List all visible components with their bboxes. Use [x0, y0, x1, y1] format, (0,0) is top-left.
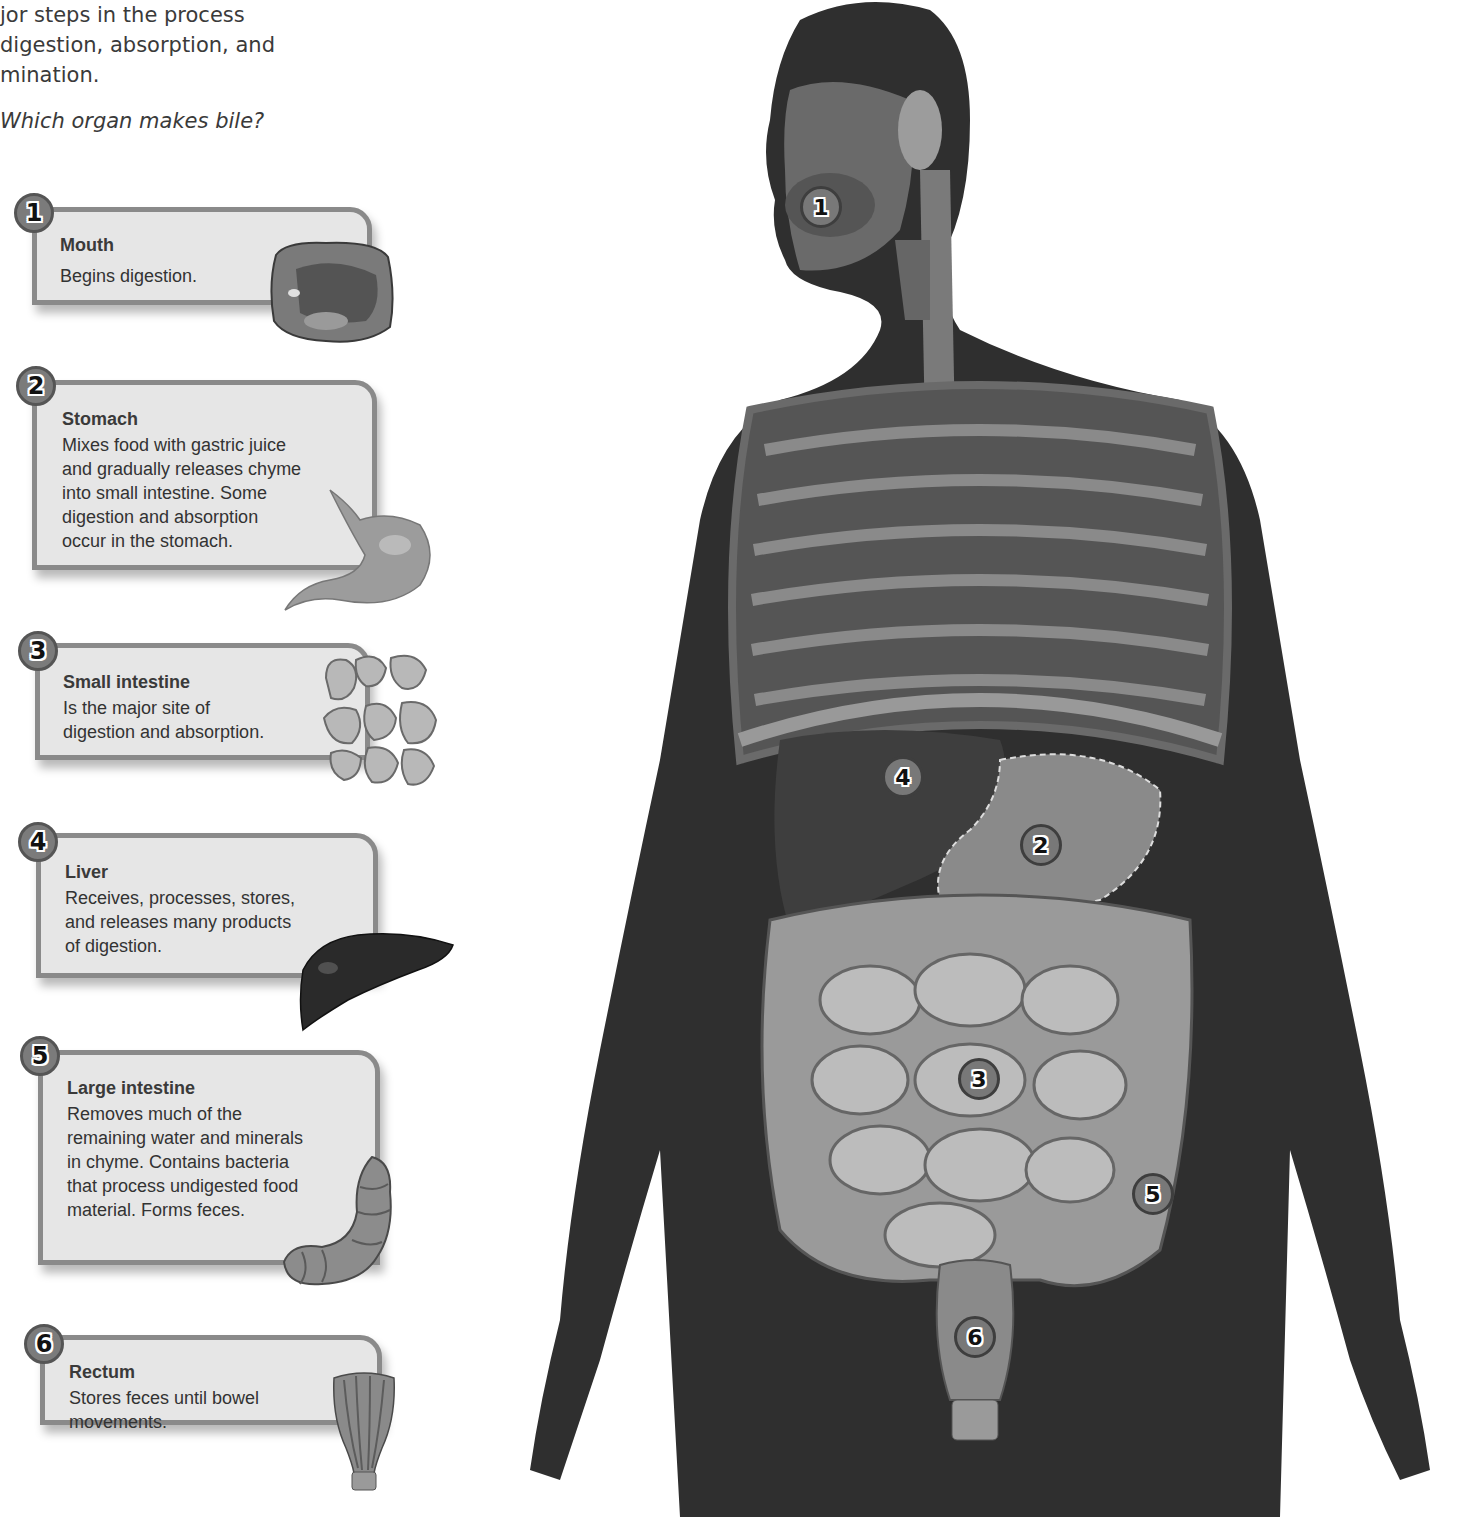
step-badge-3: 3 — [18, 631, 58, 671]
description-line: of digestion. — [65, 934, 295, 958]
figure-marker-large-intestine: 5 — [1132, 1173, 1174, 1215]
marker-number: 4 — [895, 765, 910, 790]
figure-question: Which organ makes bile? — [0, 109, 264, 133]
description-line: in chyme. Contains bacteria — [67, 1150, 303, 1174]
step-badge-2: 2 — [16, 366, 56, 406]
description-line: Stores feces until bowel — [69, 1386, 259, 1410]
stomach-icon — [280, 485, 440, 615]
step-description: Removes much of the remaining water and … — [67, 1102, 303, 1222]
marker-number: 1 — [813, 195, 828, 220]
step-number: 4 — [30, 828, 47, 856]
intro-line: mination. — [0, 60, 320, 90]
description-line: that process undigested food — [67, 1174, 303, 1198]
figure-marker-small-intestine: 3 — [958, 1058, 1000, 1100]
description-line: Mixes food with gastric juice — [62, 433, 301, 457]
mouth-cross-section-icon — [266, 235, 398, 347]
step-number: 2 — [28, 372, 45, 400]
marker-number: 2 — [1033, 833, 1048, 858]
human-body-figure — [500, 0, 1458, 1517]
intro-text: jor steps in the process digestion, abso… — [0, 0, 320, 90]
step-title: Rectum — [69, 1362, 135, 1383]
step-title: Large intestine — [67, 1078, 195, 1099]
marker-number: 3 — [971, 1067, 986, 1092]
description-line: digestion and absorption — [62, 505, 301, 529]
step-badge-6: 6 — [24, 1324, 64, 1364]
small-intestine-icon — [316, 648, 444, 790]
step-title: Mouth — [60, 235, 114, 256]
description-line: Removes much of the — [67, 1102, 303, 1126]
description-line: Receives, processes, stores, — [65, 886, 295, 910]
step-number: 3 — [30, 637, 47, 665]
description-line: Begins digestion. — [60, 264, 197, 288]
figure-marker-rectum: 6 — [954, 1316, 996, 1358]
description-line: digestion and absorption. — [63, 720, 264, 744]
large-intestine-icon — [282, 1152, 397, 1292]
step-description: Begins digestion. — [60, 264, 197, 288]
marker-number: 5 — [1145, 1182, 1160, 1207]
intro-line: jor steps in the process — [0, 0, 320, 30]
description-line: material. Forms feces. — [67, 1198, 303, 1222]
figure-marker-mouth: 1 — [800, 186, 842, 228]
step-badge-1: 1 — [14, 193, 54, 233]
step-title: Small intestine — [63, 672, 190, 693]
intro-line: digestion, absorption, and — [0, 30, 320, 60]
description-line: remaining water and minerals — [67, 1126, 303, 1150]
step-badge-4: 4 — [18, 822, 58, 862]
step-description: Receives, processes, stores, and release… — [65, 886, 295, 958]
marker-number: 6 — [967, 1325, 982, 1350]
rectum-icon — [330, 1368, 398, 1498]
description-line: occur in the stomach. — [62, 529, 301, 553]
step-number: 1 — [26, 199, 43, 227]
figure-marker-stomach: 2 — [1020, 824, 1062, 866]
description-line: and releases many products — [65, 910, 295, 934]
step-description: Is the major site of digestion and absor… — [63, 696, 264, 744]
step-number: 5 — [32, 1042, 49, 1070]
step-description: Mixes food with gastric juice and gradua… — [62, 433, 301, 553]
step-title: Stomach — [62, 409, 138, 430]
liver-icon — [298, 930, 458, 1032]
step-badge-5: 5 — [20, 1036, 60, 1076]
description-line: movements. — [69, 1410, 259, 1434]
description-line: Is the major site of — [63, 696, 264, 720]
figure-marker-liver: 4 — [882, 756, 924, 798]
step-number: 6 — [36, 1330, 53, 1358]
description-line: and gradually releases chyme — [62, 457, 301, 481]
step-title: Liver — [65, 862, 108, 883]
step-description: Stores feces until bowel movements. — [69, 1386, 259, 1434]
description-line: into small intestine. Some — [62, 481, 301, 505]
